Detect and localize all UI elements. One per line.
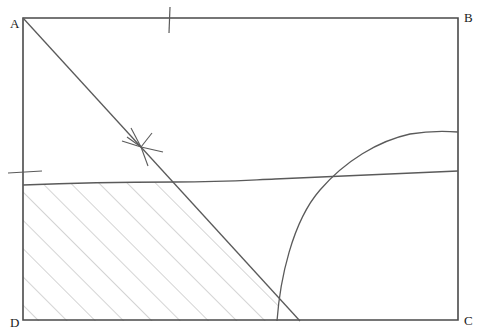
corner-label-d: D <box>10 315 19 330</box>
diagram-canvas: A B C D <box>0 0 477 332</box>
left-edge-tick <box>8 171 42 173</box>
corner-label-c: C <box>464 313 473 328</box>
star-marker-stroke <box>141 133 152 147</box>
hatched-region <box>23 182 278 321</box>
top-edge-tick <box>169 7 170 33</box>
wavy-horizontal-line <box>23 171 458 185</box>
geometric-diagram: A B C D <box>0 0 477 332</box>
star-marker-stroke <box>141 147 148 166</box>
corner-label-b: B <box>464 10 473 25</box>
corner-label-a: A <box>10 16 20 31</box>
asymptotic-curve <box>277 131 458 321</box>
